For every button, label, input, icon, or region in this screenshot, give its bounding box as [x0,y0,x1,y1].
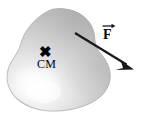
force-arrow-head [116,60,135,70]
blob-highlight-core [27,81,61,103]
blob-shading [0,0,141,124]
figure-canvas [0,0,141,124]
rigid-body-blob [0,0,141,124]
physics-figure: ✖ CM F [0,0,141,124]
blob-right-lobe-shadow [66,44,126,108]
